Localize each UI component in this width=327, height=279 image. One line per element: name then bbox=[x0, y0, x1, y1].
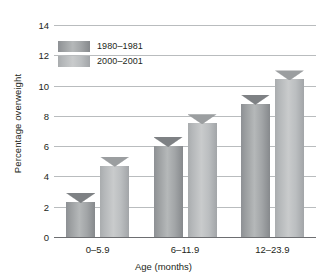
bar bbox=[66, 193, 95, 237]
bar bbox=[275, 70, 304, 237]
bar bbox=[100, 157, 129, 237]
y-axis-tick-label: 2 bbox=[44, 201, 49, 212]
legend-label: 2000–2001 bbox=[97, 56, 143, 66]
bar bbox=[241, 95, 270, 237]
legend-label: 1980–1981 bbox=[97, 41, 143, 51]
x-axis-tick-label: 12–23.9 bbox=[255, 244, 289, 255]
bar bbox=[188, 114, 217, 237]
y-axis-title: Percentage overweight bbox=[12, 49, 23, 199]
y-axis-tick-label: 0 bbox=[44, 232, 49, 243]
x-axis-tick-label: 0–5.9 bbox=[86, 244, 110, 255]
y-axis-tick-label: 14 bbox=[38, 20, 49, 31]
x-axis-tick-label: 6–11.9 bbox=[171, 244, 199, 255]
y-axis-tick-label: 4 bbox=[44, 171, 49, 182]
bar-body bbox=[188, 123, 217, 237]
x-axis-title: Age (months) bbox=[0, 261, 327, 272]
bar-body bbox=[66, 202, 95, 237]
legend-swatch-icon bbox=[58, 41, 90, 52]
legend-swatch-icon bbox=[58, 56, 90, 67]
chart-figure: Percentage overweight 02468101214 0–5.96… bbox=[0, 0, 327, 279]
bar-body bbox=[154, 146, 183, 237]
y-axis-tick-label: 12 bbox=[38, 50, 49, 61]
bar-body bbox=[241, 104, 270, 237]
bar-body bbox=[275, 79, 304, 237]
axis-baseline bbox=[54, 237, 316, 238]
legend-item: 2000–2001 bbox=[58, 55, 143, 67]
y-axis-tick-label: 10 bbox=[38, 80, 49, 91]
legend-item: 1980–1981 bbox=[58, 40, 143, 52]
legend: 1980–1981 2000–2001 bbox=[58, 40, 143, 70]
y-axis-tick-label: 8 bbox=[44, 110, 49, 121]
y-axis-tick-label: 6 bbox=[44, 141, 49, 152]
bar bbox=[154, 137, 183, 237]
bar-body bbox=[100, 166, 129, 237]
